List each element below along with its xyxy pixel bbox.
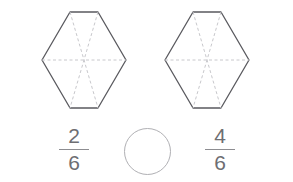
answer-row: 2 6 4 6 (0, 118, 293, 182)
fraction-right-bar (205, 149, 235, 150)
worksheet-canvas: 2 6 4 6 (0, 0, 293, 182)
fraction-left: 2 6 (46, 125, 102, 174)
comparison-answer-circle[interactable] (124, 128, 171, 175)
fraction-left-denominator: 6 (46, 152, 102, 174)
hexagon-right-container[interactable] (161, 8, 273, 112)
hexagon-left-container[interactable] (14, 8, 126, 112)
hexagon-left-svg (14, 8, 126, 112)
fraction-right-denominator: 6 (192, 152, 248, 174)
fraction-left-numerator: 2 (46, 125, 102, 147)
shape-row (0, 0, 293, 118)
fraction-right-numerator: 4 (192, 125, 248, 147)
fraction-left-bar (59, 149, 89, 150)
fraction-right: 4 6 (192, 125, 248, 174)
hexagon-right-svg (161, 8, 273, 112)
